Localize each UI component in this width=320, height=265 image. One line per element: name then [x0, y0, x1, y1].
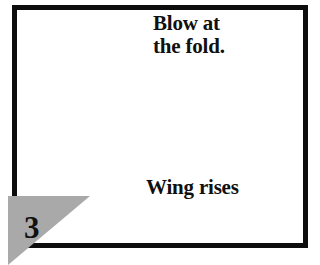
step-number-text: 3: [24, 210, 40, 246]
step-number-badge: 3: [8, 196, 90, 265]
illustration-canvas: Blow at the fold. Wing rises 3: [0, 0, 320, 265]
wing-rises-label: Wing rises: [146, 176, 239, 199]
blow-instruction-caption: Blow at the fold.: [153, 12, 225, 57]
step-badge-triangle: [8, 196, 90, 265]
